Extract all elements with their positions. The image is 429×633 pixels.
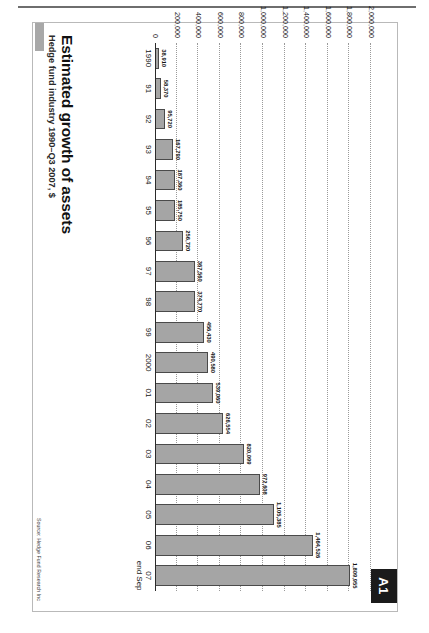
bar-value-label: 1,809,955 bbox=[352, 562, 358, 588]
x-axis-tick-label: 06 bbox=[134, 530, 152, 560]
bar-value-label: 820,099 bbox=[245, 443, 251, 464]
x-axis-tick-label: 02 bbox=[134, 408, 152, 438]
figure-subtitle: Hedge fund industry 1990–Q3 2007, $ bbox=[47, 35, 57, 335]
bar bbox=[155, 230, 183, 251]
page-canvas: A1 2,000,0001,800,0001,600,0001,400,0001… bbox=[0, 0, 429, 633]
rotated-figure-wrapper: A1 2,000,0001,800,0001,600,0001,400,0001… bbox=[32, 22, 398, 612]
chart-x-axis-labels: 1990919293949596979899200001020304050607… bbox=[134, 43, 152, 591]
x-axis-tick-label: 07 end Sep bbox=[134, 560, 152, 590]
y-axis-tick-label: 1,600,000 bbox=[323, 6, 332, 38]
bar bbox=[155, 443, 244, 464]
bar-value-label: 626,554 bbox=[224, 412, 230, 433]
bar bbox=[155, 139, 173, 160]
y-axis-tick-label: 1,800,000 bbox=[344, 6, 353, 38]
figure-panel: A1 2,000,0001,800,0001,600,0001,400,0001… bbox=[32, 22, 398, 612]
bar-cell: 1,809,955 bbox=[155, 560, 371, 590]
x-axis-tick-label: 04 bbox=[134, 469, 152, 499]
bar-cell: 367,560 bbox=[155, 256, 371, 286]
figure-title-block: Estimated growth of assets Hedge fund in… bbox=[47, 35, 76, 335]
bar bbox=[155, 108, 165, 129]
bar bbox=[155, 534, 313, 555]
y-axis-tick-label: 600,000 bbox=[215, 12, 224, 38]
bar-value-label: 95,720 bbox=[167, 110, 173, 128]
x-axis-tick-label: 92 bbox=[134, 103, 152, 133]
chart-bars: 38,91058,37095,720167,790187,360185,7502… bbox=[155, 43, 371, 591]
bar-value-label: 58,370 bbox=[163, 79, 169, 97]
bar-value-label: 367,560 bbox=[196, 260, 202, 281]
y-axis-tick-label: 800,000 bbox=[236, 12, 245, 38]
bar-value-label: 374,770 bbox=[197, 291, 203, 312]
x-axis-tick-label: 97 bbox=[134, 256, 152, 286]
bar-value-label: 490,580 bbox=[209, 352, 215, 373]
bar bbox=[155, 200, 175, 221]
x-axis-tick-label: 05 bbox=[134, 499, 152, 529]
bar-cell: 374,770 bbox=[155, 286, 371, 316]
y-axis-tick-label: 200,000 bbox=[172, 12, 181, 38]
bar-cell: 626,554 bbox=[155, 408, 371, 438]
bar bbox=[155, 474, 260, 495]
bar-cell: 1,105,385 bbox=[155, 499, 371, 529]
x-axis-tick-label: 94 bbox=[134, 164, 152, 194]
x-axis-tick-label: 99 bbox=[134, 316, 152, 346]
bar bbox=[155, 169, 175, 190]
bar bbox=[155, 382, 213, 403]
bar-cell: 490,580 bbox=[155, 347, 371, 377]
y-axis-tick-label: 2,000,000 bbox=[366, 6, 375, 38]
figure-tab-badge: A1 bbox=[371, 569, 397, 603]
bar-cell: 1,464,526 bbox=[155, 530, 371, 560]
bar-value-label: 187,360 bbox=[177, 169, 183, 190]
bar-cell: 95,720 bbox=[155, 103, 371, 133]
bar-value-label: 185,750 bbox=[177, 199, 183, 220]
bar-cell: 456,430 bbox=[155, 316, 371, 346]
x-axis-tick-label: 2000 bbox=[134, 347, 152, 377]
bar bbox=[155, 260, 195, 281]
x-axis-tick-label: 1990 bbox=[134, 43, 152, 73]
x-axis-tick-label: 98 bbox=[134, 286, 152, 316]
page-top-rule bbox=[18, 6, 416, 8]
bar-value-label: 456,430 bbox=[206, 321, 212, 342]
bar-cell: 167,790 bbox=[155, 134, 371, 164]
bar-cell: 58,370 bbox=[155, 73, 371, 103]
bar-cell: 187,360 bbox=[155, 164, 371, 194]
bar-value-label: 167,790 bbox=[175, 139, 181, 160]
y-axis-tick-label: 400,000 bbox=[193, 12, 202, 38]
x-axis-tick-label: 96 bbox=[134, 225, 152, 255]
y-axis-tick-label: 0 bbox=[150, 34, 159, 38]
x-axis-tick-label: 95 bbox=[134, 195, 152, 225]
figure-title: Estimated growth of assets bbox=[59, 35, 76, 335]
y-axis-tick-label: 1,000,000 bbox=[258, 6, 267, 38]
bar-value-label: 38,910 bbox=[161, 49, 167, 67]
figure-corner-swatch bbox=[35, 23, 44, 51]
x-axis-tick-label: 01 bbox=[134, 377, 152, 407]
chart-x-axis-line bbox=[155, 43, 156, 591]
y-axis-tick-label: 1,200,000 bbox=[280, 6, 289, 38]
y-axis-tick-label: 1,400,000 bbox=[301, 6, 310, 38]
bar-value-label: 1,464,526 bbox=[315, 532, 321, 558]
bar-cell: 972,608 bbox=[155, 469, 371, 499]
bar-value-label: 972,608 bbox=[262, 473, 268, 494]
bar-value-label: 539,060 bbox=[215, 382, 221, 403]
bar bbox=[155, 352, 208, 373]
bar-cell: 38,910 bbox=[155, 43, 371, 73]
bar bbox=[155, 291, 195, 312]
bar bbox=[155, 321, 204, 342]
figure-source-note: Source: Hedge Fund Research Inc bbox=[36, 518, 42, 601]
bar bbox=[155, 413, 223, 434]
bar-value-label: 256,720 bbox=[184, 230, 190, 251]
x-axis-tick-label: 03 bbox=[134, 438, 152, 468]
bar-cell: 820,099 bbox=[155, 438, 371, 468]
bar-value-label: 1,105,385 bbox=[276, 501, 282, 527]
bar-cell: 256,720 bbox=[155, 225, 371, 255]
bar-cell: 185,750 bbox=[155, 195, 371, 225]
x-axis-tick-label: 93 bbox=[134, 134, 152, 164]
bar-cell: 539,060 bbox=[155, 377, 371, 407]
bar bbox=[155, 504, 274, 525]
chart-plot-area: 2,000,0001,800,0001,600,0001,400,0001,20… bbox=[155, 43, 371, 591]
x-axis-tick-label: 91 bbox=[134, 73, 152, 103]
bar bbox=[155, 565, 350, 586]
